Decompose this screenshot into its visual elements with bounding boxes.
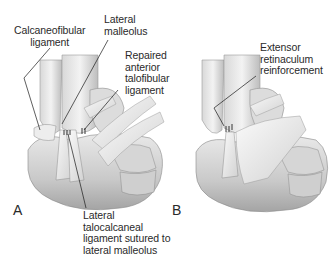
panel-letter-a: A xyxy=(13,202,22,218)
label-lateral-malleolus: Lateral malleolus xyxy=(104,14,147,37)
label-repaired-anterior-talofibular-ligament: Repaired anterior talofibular ligament xyxy=(125,50,169,96)
ankle-ligament-repair-figure: Calcaneofibular ligament Lateral malleol… xyxy=(0,0,336,264)
panel-letter-b: B xyxy=(172,202,181,218)
panel-b-illustration xyxy=(196,55,328,212)
label-lateral-talocalcaneal-ligament: Lateral talocalcaneal ligament sutured t… xyxy=(83,210,170,256)
label-calcaneofibular-ligament: Calcaneofibular ligament xyxy=(14,25,85,48)
label-extensor-retinaculum-reinforcement: Extensor retinaculum reinforcement xyxy=(260,42,323,77)
